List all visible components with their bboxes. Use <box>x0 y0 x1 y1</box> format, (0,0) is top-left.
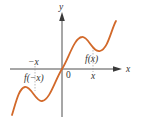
y-axis-label: y <box>58 2 64 12</box>
f-x-label: f(x) <box>85 54 98 65</box>
origin-label: 0 <box>66 70 71 80</box>
pos-x-label: x <box>90 71 96 81</box>
y-axis-arrow-icon <box>59 12 65 21</box>
neg-x-label: −x <box>28 57 39 67</box>
x-axis-arrow-icon <box>113 66 122 72</box>
odd-function-diagram: y x 0 −x x f(−x) f(x) <box>0 0 141 119</box>
f-neg-x-label: f(−x) <box>24 73 44 84</box>
x-axis-label: x <box>125 64 131 74</box>
function-curve <box>12 21 116 115</box>
